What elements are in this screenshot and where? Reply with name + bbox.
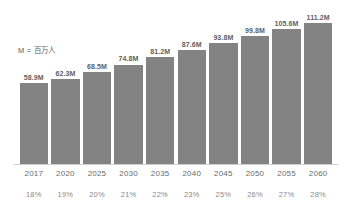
bar bbox=[272, 29, 300, 164]
percent-label: 26% bbox=[241, 191, 269, 199]
bar bbox=[51, 79, 79, 164]
bar-value-label: 99.8M bbox=[245, 27, 265, 34]
x-axis-tick-label: 2017 bbox=[20, 170, 48, 178]
bar bbox=[20, 83, 48, 164]
bar-group: 74.8M bbox=[114, 12, 142, 164]
percent-label: 27% bbox=[272, 191, 300, 199]
bar-group: 111.2M bbox=[304, 12, 332, 164]
bar-group: 62.3M bbox=[51, 12, 79, 164]
x-axis-line bbox=[14, 164, 338, 165]
x-axis-tick-label: 2020 bbox=[51, 170, 79, 178]
bar-chart: M = 百万人 58.9M62.3M68.5M74.8M81.2M87.6M93… bbox=[0, 0, 350, 215]
secondary-percent-labels: 18%19%20%21%22%23%25%26%27%28% bbox=[18, 191, 334, 199]
percent-label: 22% bbox=[146, 191, 174, 199]
plot-area: 58.9M62.3M68.5M74.8M81.2M87.6M93.8M99.8M… bbox=[18, 12, 334, 164]
bar-group: 68.5M bbox=[83, 12, 111, 164]
bar-group: 99.8M bbox=[241, 12, 269, 164]
bar-value-label: 87.6M bbox=[182, 41, 202, 48]
x-axis-tick-label: 2055 bbox=[272, 170, 300, 178]
percent-label: 23% bbox=[178, 191, 206, 199]
x-axis-tick-label: 2060 bbox=[304, 170, 332, 178]
x-axis-tick-label: 2050 bbox=[241, 170, 269, 178]
bar bbox=[146, 57, 174, 164]
x-axis-tick-label: 2035 bbox=[146, 170, 174, 178]
bar-value-label: 62.3M bbox=[55, 70, 75, 77]
x-axis-tick-label: 2030 bbox=[114, 170, 142, 178]
bar-value-label: 58.9M bbox=[24, 74, 44, 81]
bar-group: 93.8M bbox=[209, 12, 237, 164]
x-axis-tick-label: 2025 bbox=[83, 170, 111, 178]
bars-row: 58.9M62.3M68.5M74.8M81.2M87.6M93.8M99.8M… bbox=[18, 12, 334, 164]
bar bbox=[241, 36, 269, 164]
x-axis-tick-labels: 2017202020252030203520402045205020552060 bbox=[18, 170, 334, 178]
bar bbox=[209, 43, 237, 164]
bar bbox=[83, 72, 111, 164]
bar bbox=[304, 23, 332, 164]
percent-label: 25% bbox=[209, 191, 237, 199]
percent-label: 20% bbox=[83, 191, 111, 199]
bar-value-label: 105.6M bbox=[275, 20, 299, 27]
percent-label: 19% bbox=[51, 191, 79, 199]
bar-value-label: 93.8M bbox=[213, 34, 233, 41]
bar-group: 58.9M bbox=[20, 12, 48, 164]
x-axis-tick-label: 2045 bbox=[209, 170, 237, 178]
percent-label: 28% bbox=[304, 191, 332, 199]
bar-value-label: 81.2M bbox=[150, 48, 170, 55]
bar-value-label: 74.8M bbox=[119, 55, 139, 62]
bar-value-label: 111.2M bbox=[307, 14, 330, 21]
bar bbox=[178, 50, 206, 164]
bar bbox=[114, 65, 142, 164]
bar-group: 87.6M bbox=[178, 12, 206, 164]
bar-value-label: 68.5M bbox=[87, 63, 107, 70]
percent-label: 18% bbox=[20, 191, 48, 199]
bar-group: 105.6M bbox=[272, 12, 300, 164]
x-axis-tick-label: 2040 bbox=[178, 170, 206, 178]
bar-group: 81.2M bbox=[146, 12, 174, 164]
percent-label: 21% bbox=[114, 191, 142, 199]
